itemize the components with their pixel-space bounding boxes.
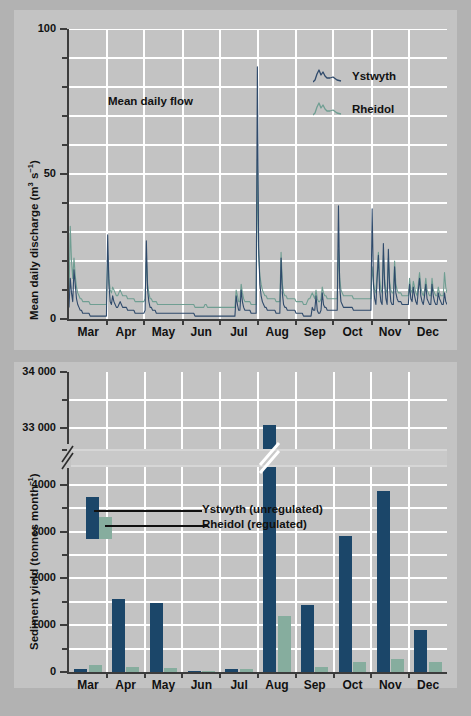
bottom-chart-y-axis-line [67, 372, 69, 674]
bar-ystwyth-dec [414, 630, 427, 672]
top-chart-y-tick [62, 289, 67, 291]
top-chart-legend-label-ystwyth: Ystwyth [352, 70, 396, 82]
bottom-chart-y-tick [62, 648, 67, 650]
bar-rheidol-mar [89, 665, 102, 673]
bottom-chart-gridline-v [333, 372, 335, 672]
top-chart-y-tick [62, 57, 67, 59]
top-chart-x-tick-label-dec: Dec [400, 325, 456, 339]
bottom-chart-y-tick [62, 399, 67, 401]
bottom-chart-y-tick [60, 427, 67, 429]
bottom-chart-y-tick [60, 577, 67, 579]
top-chart-y-tick-label: 50 [0, 167, 56, 179]
top-chart-y-tick [62, 144, 67, 146]
bottom-chart-legend-label-rheidol: Rheidol (regulated) [202, 518, 307, 530]
bottom-chart-gridline-v [181, 372, 183, 672]
bottom-chart-y-tick-label: 2000 [0, 571, 56, 583]
bar-rheidol-oct [353, 662, 366, 672]
bar-ystwyth-nov [377, 491, 390, 672]
y-axis-title-end: ) [28, 160, 40, 164]
bar-ystwyth-may [150, 603, 163, 672]
bottom-chart-y-tick-label: 1000 [0, 618, 56, 630]
bottom-chart-bar-break-slashes [257, 439, 282, 477]
bottom-chart-y-tick [62, 554, 67, 556]
bottom-chart-legend-swatch-rheidol [99, 517, 112, 539]
bottom-chart-y-tick [60, 624, 67, 626]
bar-ystwyth-apr [112, 599, 125, 672]
top-chart-y-tick [62, 231, 67, 233]
bottom-chart-gridline-v [370, 372, 372, 672]
bar-rheidol-aug [278, 616, 291, 672]
bottom-chart-y-tick-label: 0 [0, 665, 56, 677]
bottom-chart-y-tick-label: 4000 [0, 478, 56, 490]
bottom-chart-y-tick-label: 33 000 [0, 421, 56, 433]
bottom-chart-y-tick-label: 3000 [0, 525, 56, 537]
top-chart-y-tick-label: 100 [0, 22, 56, 34]
bottom-chart-y-axis-break-slashes [56, 442, 78, 472]
top-chart-y-axis-line [67, 29, 69, 321]
bottom-chart-y-tick [62, 507, 67, 509]
y-axis-title-main: Mean daily discharge (m [28, 186, 40, 320]
bottom-chart-legend-label-ystwyth: Ystwyth (unregulated) [202, 503, 323, 515]
top-chart-legend-label-rheidol: Rheidol [352, 103, 394, 115]
top-chart-y-tick [62, 260, 67, 262]
bottom-chart-x-tick-label-dec: Dec [400, 678, 456, 692]
bottom-chart-y-tick [62, 601, 67, 603]
top-chart-y-tick-label: 0 [0, 312, 56, 324]
figure-root: Mean daily discharge (m3 s−1) 050100 Mar… [0, 0, 471, 716]
bottom-chart-gridline-v [408, 372, 410, 672]
bottom-chart-y-tick [60, 484, 67, 486]
bar-rheidol-nov [391, 659, 404, 672]
top-chart-y-axis-title: Mean daily discharge (m3 s−1) [26, 160, 40, 320]
bar-ystwyth-oct [339, 536, 352, 672]
top-chart-y-tick [62, 86, 67, 88]
bottom-chart-legend-swatch-ystwyth [86, 497, 99, 539]
top-chart-y-tick [62, 202, 67, 204]
bottom-chart-y-tick [60, 531, 67, 533]
y-axis-title-end: ) [28, 473, 40, 477]
top-chart-y-tick [60, 28, 67, 30]
bottom-chart-legend-leader-ystwyth [94, 510, 202, 512]
top-chart-y-tick [60, 318, 67, 320]
top-chart-y-tick [62, 115, 67, 117]
bottom-chart-gridline-v [144, 372, 146, 672]
legend-line-sample-rheidol [313, 101, 347, 117]
bottom-chart-y-tick-label: 34 000 [0, 365, 56, 377]
top-chart-y-tick [60, 173, 67, 175]
bar-ystwyth-sep [301, 605, 314, 672]
legend-line-sample-ystwyth [313, 68, 347, 84]
top-chart-annotation: Mean daily flow [108, 95, 193, 107]
y-axis-title-sup-3: 3 [26, 182, 35, 186]
bottom-chart-y-tick [60, 371, 67, 373]
bottom-chart-y-tick [60, 671, 67, 673]
bottom-chart-legend-leader-rheidol [105, 525, 208, 527]
bar-rheidol-dec [429, 662, 442, 672]
